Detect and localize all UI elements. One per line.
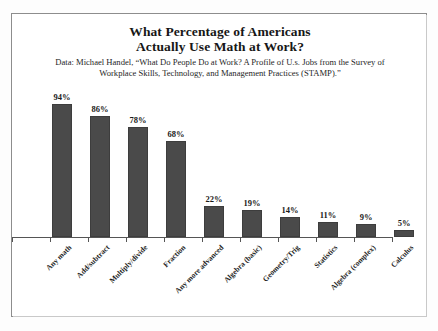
bar-value-label: 94%	[54, 92, 71, 102]
chart-source-note: Data: Michael Handel, “What Do People Do…	[24, 57, 416, 78]
x-axis-tick	[50, 237, 51, 242]
x-axis-category-label: Fraction	[161, 243, 187, 269]
chart-plot-area: 94%86%78%68%22%19%14%11%9%5%	[43, 96, 423, 237]
x-axis-category-label: Any math	[44, 243, 73, 272]
x-axis-tick	[278, 237, 279, 242]
x-axis-category-label: Multiply/divide	[107, 243, 149, 285]
bar	[166, 141, 186, 237]
bar-slot: 94%	[43, 96, 81, 237]
bar	[90, 116, 110, 237]
x-axis-tick	[354, 237, 355, 242]
bar-value-label: 14%	[282, 205, 299, 215]
bar	[318, 222, 338, 238]
chart-title-line-1: What Percentage of Americans	[24, 24, 416, 39]
x-axis-category-label: Add/subtract	[75, 243, 112, 280]
chart-page: What Percentage of Americans Actually Us…	[0, 0, 438, 331]
x-axis-category-label: Algebra (basic)	[222, 243, 263, 284]
bar-value-label: 68%	[168, 129, 185, 139]
x-axis-category-label: Geometry/Trig	[261, 243, 302, 284]
bar-value-label: 22%	[206, 194, 223, 204]
x-axis-category-label: Calculus	[389, 243, 415, 269]
bar-slot: 11%	[309, 96, 347, 237]
bar-series: 94%86%78%68%22%19%14%11%9%5%	[43, 96, 423, 237]
x-axis-line	[12, 237, 392, 238]
bar-slot: 78%	[119, 96, 157, 237]
x-axis-category-labels: Any mathAdd/subtractMultiply/divideFract…	[43, 243, 423, 323]
x-axis-tick	[88, 237, 89, 242]
bar-slot: 86%	[81, 96, 119, 237]
chart-header: What Percentage of Americans Actually Us…	[24, 24, 416, 78]
x-axis-tick	[12, 237, 13, 242]
chart-frame-border: What Percentage of Americans Actually Us…	[11, 13, 427, 317]
bar-value-label: 86%	[92, 104, 109, 114]
x-axis-tick	[392, 237, 393, 242]
bar-slot: 5%	[385, 96, 423, 237]
x-axis-tick	[202, 237, 203, 242]
bar-value-label: 19%	[244, 198, 261, 208]
bar-value-label: 5%	[398, 218, 411, 228]
bar-value-label: 11%	[320, 210, 337, 220]
bar-slot: 9%	[347, 96, 385, 237]
bar	[394, 230, 414, 237]
bar	[128, 127, 148, 237]
bar-value-label: 78%	[130, 115, 147, 125]
bar	[280, 217, 300, 237]
bar-slot: 19%	[233, 96, 271, 237]
chart-title-line-2: Actually Use Math at Work?	[24, 39, 416, 54]
bar-slot: 14%	[271, 96, 309, 237]
x-axis-category-label: Statistics	[312, 243, 339, 270]
bar-slot: 22%	[195, 96, 233, 237]
bar-slot: 68%	[157, 96, 195, 237]
x-axis-tick	[316, 237, 317, 242]
bar	[204, 206, 224, 237]
x-axis-tick	[164, 237, 165, 242]
bar-value-label: 9%	[360, 212, 373, 222]
x-axis-tick	[240, 237, 241, 242]
bar	[242, 210, 262, 237]
bar	[356, 224, 376, 237]
bar	[52, 104, 72, 237]
x-axis-tick	[126, 237, 127, 242]
